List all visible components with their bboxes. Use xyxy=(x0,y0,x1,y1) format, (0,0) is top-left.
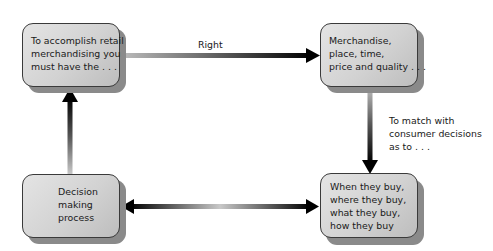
arrow-down-merchandise-to-consumer xyxy=(362,87,378,174)
box-five-rights: Merchandise, place, time, price and qual… xyxy=(320,23,418,87)
box-text: Decision making process xyxy=(58,185,98,224)
arrow-up-decision-to-retail xyxy=(62,88,78,174)
arrow-label-right: Right xyxy=(198,38,223,51)
box-decision-making: Decision making process xyxy=(22,174,120,238)
box-text: Merchandise, place, time, price and qual… xyxy=(329,34,426,73)
box-text: When they buy, where they buy, what they… xyxy=(330,180,406,232)
box-text: To accomplish retail merchandising you m… xyxy=(31,34,124,73)
arrow-bidirectional-decision-consumer xyxy=(121,199,319,214)
arrow-label-to-match: To match with consumer decisions as to .… xyxy=(389,114,482,153)
box-consumer-decisions: When they buy, where they buy, what they… xyxy=(320,173,418,238)
box-retail-merchandising: To accomplish retail merchandising you m… xyxy=(22,23,120,87)
